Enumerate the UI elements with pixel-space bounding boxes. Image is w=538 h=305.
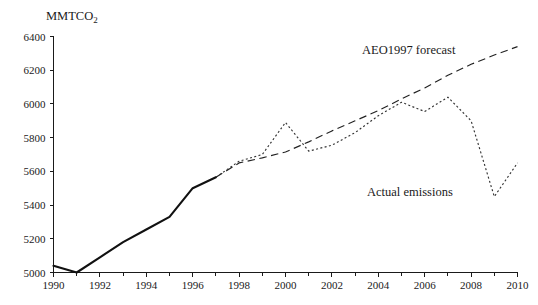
y-tick-label: 6200 [24, 64, 47, 76]
y-axis-unit-main: MMTCO [46, 9, 93, 23]
y-tick-label: 5800 [24, 132, 47, 144]
series-annotation-label: Actual emissions [367, 185, 453, 199]
y-axis-unit-subscript: 2 [93, 15, 98, 25]
x-tick-label: 2008 [460, 279, 483, 291]
x-tick-label: 1992 [89, 279, 111, 291]
series-line-actual-emissions [216, 97, 518, 196]
series-line-historical-emissions [54, 177, 216, 272]
y-tick-label: 6400 [24, 31, 47, 43]
x-tick-label: 1998 [228, 279, 251, 291]
x-tick-label: 1996 [182, 279, 205, 291]
y-axis-tick-labels: 64006200600058005600540052005000 [24, 31, 47, 279]
series-annotation-label: AEO1997 forecast [362, 43, 456, 57]
y-tick-label: 6000 [24, 98, 47, 110]
series-annotations: AEO1997 forecastActual emissions [362, 43, 456, 199]
x-tick-label: 2002 [321, 279, 343, 291]
y-axis-unit-label: MMTCO2 [46, 9, 98, 25]
x-tick-label: 2006 [414, 279, 437, 291]
x-axis-tick-labels: 1990199219941996199820002002200420062008… [43, 279, 530, 291]
series-group [54, 47, 518, 273]
y-axis-tick-marks [50, 37, 54, 273]
x-tick-label: 2004 [367, 279, 390, 291]
x-tick-label: 2010 [507, 279, 530, 291]
x-tick-label: 1990 [43, 279, 66, 291]
y-tick-label: 5200 [24, 233, 47, 245]
axes-group [50, 37, 518, 278]
emissions-line-chart: 64006200600058005600540052005000 1990199… [0, 0, 538, 305]
x-tick-label: 2000 [275, 279, 298, 291]
y-tick-label: 5600 [24, 165, 47, 177]
y-tick-label: 5400 [24, 199, 47, 211]
x-axis-tick-marks [54, 273, 518, 278]
series-line-aeo1997-forecast [216, 47, 518, 178]
chart-canvas: 64006200600058005600540052005000 1990199… [0, 0, 538, 305]
x-tick-label: 1994 [135, 279, 158, 291]
y-tick-label: 5000 [24, 267, 47, 279]
